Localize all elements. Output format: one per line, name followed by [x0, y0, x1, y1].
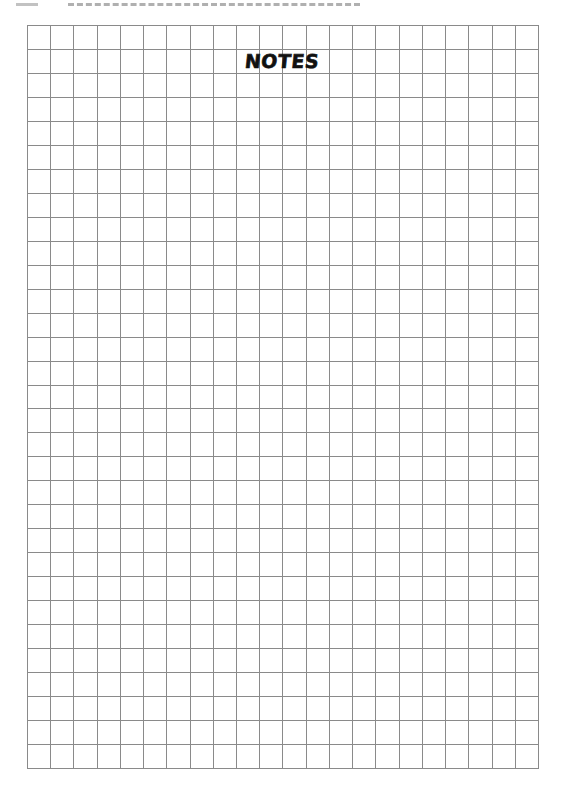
grid-cell — [73, 408, 96, 432]
grid-cell — [73, 313, 96, 337]
grid-cell — [190, 408, 213, 432]
grid-cell — [399, 25, 422, 49]
grid-cell — [166, 432, 189, 456]
grid-cell — [375, 217, 398, 241]
grid-cell — [73, 169, 96, 193]
grid-cell — [190, 313, 213, 337]
grid-cell — [329, 145, 352, 169]
grid-cell — [97, 744, 120, 768]
grid-cell — [213, 672, 236, 696]
grid-cell — [73, 241, 96, 265]
grid-cell — [375, 385, 398, 409]
grid-cell — [73, 672, 96, 696]
grid-cell — [120, 193, 143, 217]
grid-cell — [422, 97, 445, 121]
grid-cell — [190, 145, 213, 169]
grid-cell — [236, 313, 259, 337]
grid-cell — [143, 528, 166, 552]
grid-cell — [97, 145, 120, 169]
grid-cell — [445, 169, 468, 193]
grid-cell — [515, 289, 538, 313]
grid-cell — [236, 720, 259, 744]
grid-cell — [236, 600, 259, 624]
grid-cell — [375, 624, 398, 648]
grid-cell — [50, 241, 73, 265]
grid-cell — [259, 432, 282, 456]
grid-cell — [329, 648, 352, 672]
grid-cell — [213, 361, 236, 385]
grid-cell — [259, 672, 282, 696]
grid-cell — [190, 624, 213, 648]
grid-cell — [97, 720, 120, 744]
grid-cell — [259, 121, 282, 145]
grid-cell — [259, 552, 282, 576]
grid-cell — [492, 528, 515, 552]
grid-cell — [166, 648, 189, 672]
grid-cell — [422, 385, 445, 409]
grid-cell — [329, 600, 352, 624]
grid-cell — [143, 73, 166, 97]
grid-cell — [120, 385, 143, 409]
grid-cell — [190, 576, 213, 600]
grid-cell — [236, 217, 259, 241]
grid-cell — [282, 385, 305, 409]
grid-cell — [213, 25, 236, 49]
grid-cell — [492, 121, 515, 145]
grid-cell — [190, 97, 213, 121]
grid-cell — [492, 600, 515, 624]
grid-cell — [27, 49, 50, 73]
grid-cell — [236, 504, 259, 528]
grid-cell — [399, 289, 422, 313]
grid-cell — [213, 720, 236, 744]
grid-cell — [422, 552, 445, 576]
grid-cell — [236, 744, 259, 768]
grid-cell — [73, 744, 96, 768]
grid-cell — [422, 456, 445, 480]
grid-cell — [492, 241, 515, 265]
grid-cell — [213, 73, 236, 97]
grid-cell — [213, 528, 236, 552]
grid-cell — [143, 97, 166, 121]
grid-cell — [27, 552, 50, 576]
grid-cell — [73, 432, 96, 456]
grid-cell — [190, 289, 213, 313]
grid-cell — [445, 672, 468, 696]
grid-cell — [445, 648, 468, 672]
grid-cell — [306, 672, 329, 696]
grid-cell — [468, 480, 491, 504]
grid-cell — [329, 289, 352, 313]
grid-cell — [120, 648, 143, 672]
grid-cell — [515, 456, 538, 480]
grid-cell — [143, 504, 166, 528]
grid-cell — [306, 504, 329, 528]
grid-cell — [27, 97, 50, 121]
grid-cell — [375, 337, 398, 361]
grid-cell — [282, 456, 305, 480]
grid-cell — [282, 408, 305, 432]
grid-cell — [27, 720, 50, 744]
grid-cell — [515, 121, 538, 145]
grid-cell — [352, 289, 375, 313]
grid-cell — [50, 385, 73, 409]
grid-cell — [375, 73, 398, 97]
grid-cell — [445, 552, 468, 576]
grid-cell — [213, 385, 236, 409]
grid-cell — [492, 385, 515, 409]
grid-cell — [73, 720, 96, 744]
grid-cell — [27, 241, 50, 265]
grid-cell — [236, 528, 259, 552]
grid-cell — [399, 744, 422, 768]
grid-cell — [50, 217, 73, 241]
grid-cell — [190, 73, 213, 97]
grid-cell — [329, 361, 352, 385]
grid-cell — [282, 241, 305, 265]
grid-cell — [190, 193, 213, 217]
grid-cell — [515, 432, 538, 456]
grid-cell — [445, 480, 468, 504]
grid-cell — [190, 504, 213, 528]
grid-cell — [50, 648, 73, 672]
grid-cell — [515, 696, 538, 720]
grid-cell — [50, 672, 73, 696]
grid-cell — [27, 73, 50, 97]
grid-cell — [236, 672, 259, 696]
